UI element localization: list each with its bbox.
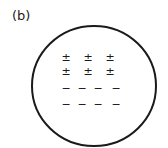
minus-symbol: − xyxy=(93,83,102,94)
plus-minus-symbol: ± xyxy=(83,52,92,63)
plus-minus-symbol: ± xyxy=(83,66,92,77)
minus-symbol: − xyxy=(111,83,120,94)
minus-symbol: − xyxy=(93,99,102,110)
minus-symbol: − xyxy=(77,83,86,94)
plus-minus-symbol: ± xyxy=(61,66,70,77)
plus-minus-symbol: ± xyxy=(105,66,114,77)
minus-symbol: − xyxy=(77,99,86,110)
plus-minus-symbol: ± xyxy=(61,52,70,63)
plus-minus-symbol: ± xyxy=(105,52,114,63)
minus-symbol: − xyxy=(111,99,120,110)
minus-symbol: − xyxy=(61,99,70,110)
minus-symbol: − xyxy=(61,83,70,94)
